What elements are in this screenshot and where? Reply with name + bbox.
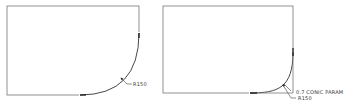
right-diagram-conic-fillet: 0.7 CONIC PARAM R150 bbox=[163, 6, 343, 101]
left-fillet-curve bbox=[80, 33, 139, 95]
fillet-comparison-drawing: R150 0.7 CONIC PARAM R150 bbox=[0, 0, 355, 106]
left-diagram-circular-fillet: R150 bbox=[7, 6, 147, 97]
right-radius-label: R150 bbox=[298, 95, 312, 101]
left-radius-label: R150 bbox=[133, 81, 147, 87]
right-box bbox=[163, 6, 293, 93]
left-box bbox=[7, 6, 139, 95]
